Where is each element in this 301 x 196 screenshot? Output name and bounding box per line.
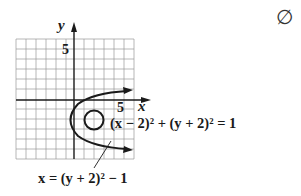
x-axis-label: x (137, 98, 146, 114)
parabola-equation-label: x = (y + 2)² − 1 (38, 170, 128, 187)
parabola-arrow-upper-icon (123, 87, 133, 94)
x-tick-label: 5 (117, 100, 124, 115)
graph-figure: y 5 5 x (x − 2)² + (y + 2)² = 1 x = (y +… (0, 0, 301, 196)
grid (16, 39, 134, 159)
y-axis-label: y (56, 17, 65, 33)
parabola-arrow-lower-icon (123, 146, 133, 153)
y-tick-label: 5 (62, 42, 69, 57)
empty-set-symbol: ∅ (276, 5, 293, 29)
axes (16, 28, 145, 159)
circle-equation-label: (x − 2)² + (y + 2)² = 1 (110, 115, 236, 132)
y-axis-arrow-icon (71, 22, 77, 32)
